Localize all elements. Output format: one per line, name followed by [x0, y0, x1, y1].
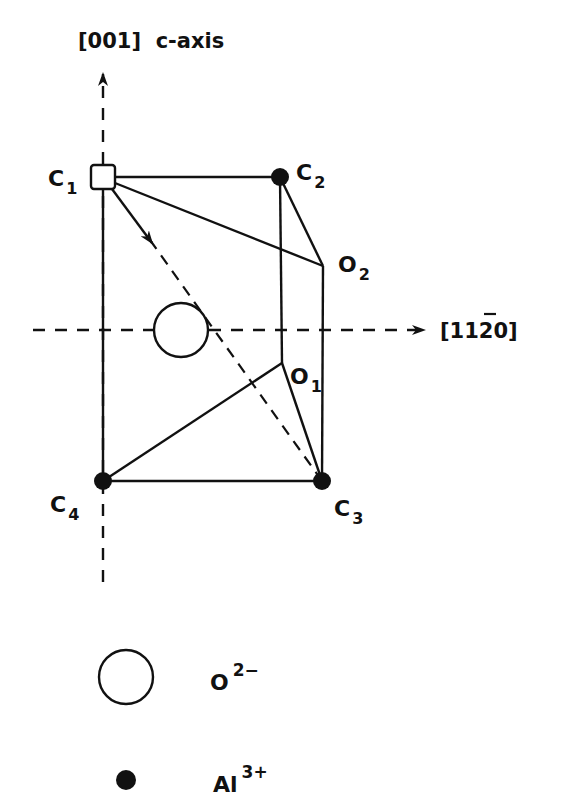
label-c4: C4	[50, 492, 79, 524]
oxygen-ion-center	[154, 303, 208, 357]
svg-text:O2−: O2−	[210, 660, 259, 695]
svg-text:[1120]: [1120]	[440, 319, 518, 343]
legend-item-oxygen: O2−	[99, 650, 259, 704]
edge-o2-c3	[322, 266, 323, 481]
label-o1: O1	[290, 364, 322, 396]
a-axis-label: [1120]	[440, 314, 518, 343]
aluminum-legend-icon	[116, 770, 136, 790]
edge-c4-o1	[103, 363, 282, 481]
legend-aluminum-base: Al	[213, 772, 238, 797]
oxygen-legend-icon	[99, 650, 153, 704]
legend: O2− Al3+	[99, 650, 268, 797]
c-axis-label: [001] c-axis	[78, 29, 224, 53]
svg-text:C2: C2	[296, 160, 325, 192]
a-axis-label-prefix: [11	[440, 319, 479, 343]
label-c2: C2	[296, 160, 325, 192]
svg-text:Al3+: Al3+	[213, 762, 268, 797]
a-axis-label-suffix: 0]	[493, 319, 517, 343]
svg-text:C3: C3	[334, 496, 363, 528]
site-c2-al-ion	[271, 168, 289, 186]
legend-oxygen-charge: 2−	[233, 660, 259, 680]
crystal-diagram: [001] c-axis [1120] C1 C2 O2 O1 C4 C3 O2…	[0, 0, 574, 812]
svg-text:C4: C4	[50, 492, 79, 524]
displacement-arrow	[112, 189, 152, 243]
edge-c1-o2	[115, 183, 323, 266]
legend-oxygen-base: O	[210, 670, 229, 695]
site-c3-al-ion	[313, 472, 331, 490]
site-c4-al-ion	[94, 472, 112, 490]
site-c1-vacancy-square	[91, 165, 115, 189]
edge-c2-o1	[280, 177, 282, 363]
diagonal-dashed-line	[150, 240, 322, 481]
label-c1: C1	[48, 166, 77, 198]
svg-text:O2: O2	[338, 252, 370, 284]
label-o2: O2	[338, 252, 370, 284]
label-c3: C3	[334, 496, 363, 528]
legend-item-aluminum: Al3+	[116, 762, 268, 797]
svg-text:O1: O1	[290, 364, 322, 396]
a-axis-label-bar-digit: 2	[479, 319, 494, 343]
svg-text:C1: C1	[48, 166, 77, 198]
legend-aluminum-charge: 3+	[242, 762, 268, 782]
